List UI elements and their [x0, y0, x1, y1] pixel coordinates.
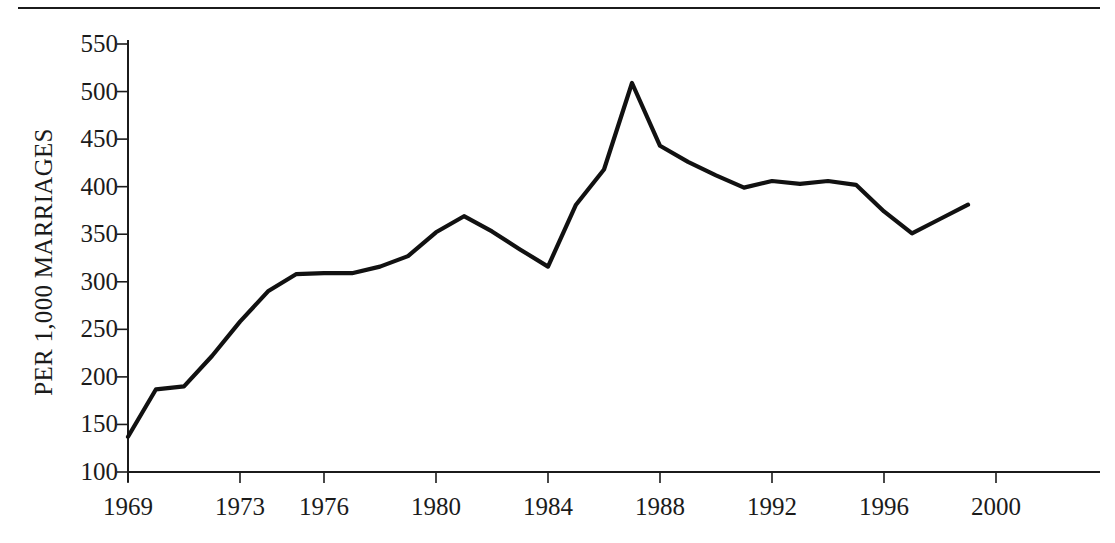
data-series-line: [128, 83, 968, 437]
y-axis-ticks: [117, 44, 128, 472]
x-axis-ticks: [128, 472, 996, 483]
chart-plot: [0, 0, 1115, 543]
chart-figure: PER 1,000 MARRIAGES 55050045040035030025…: [0, 0, 1115, 543]
